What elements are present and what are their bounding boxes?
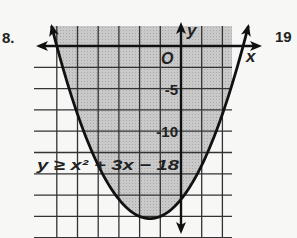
x-axis-label: x	[245, 47, 257, 66]
origin-label: O	[161, 50, 174, 67]
graph: y x O -5 -10 y ≥ x² + 3x − 18	[0, 0, 297, 238]
y-axis-label: y	[186, 21, 198, 40]
y-tick-label-minus-5: -5	[165, 81, 178, 98]
y-tick-label-minus-10: -10	[156, 123, 178, 140]
inequality-label: y ≥ x² + 3x − 18	[36, 156, 180, 173]
